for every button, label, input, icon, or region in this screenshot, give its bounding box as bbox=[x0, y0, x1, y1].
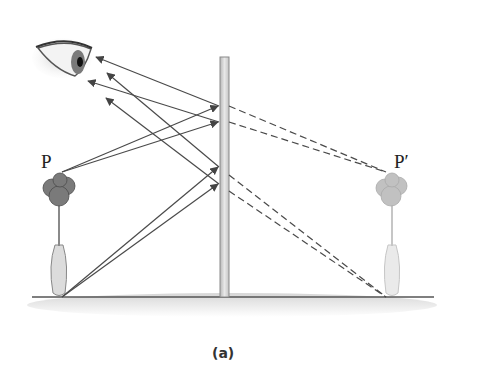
virtual-rays bbox=[229, 106, 386, 297]
rose-object bbox=[43, 173, 75, 296]
rose-image bbox=[376, 173, 407, 296]
reflected-rays bbox=[88, 57, 219, 184]
figure-caption: (a) bbox=[212, 345, 234, 361]
incident-rays bbox=[62, 106, 218, 297]
plane-mirror-diagram bbox=[0, 0, 489, 369]
image-label: P′ bbox=[394, 151, 409, 173]
eye-icon bbox=[32, 38, 92, 78]
object-label: P bbox=[41, 151, 52, 173]
plane-mirror bbox=[220, 57, 229, 297]
ground bbox=[27, 293, 437, 317]
